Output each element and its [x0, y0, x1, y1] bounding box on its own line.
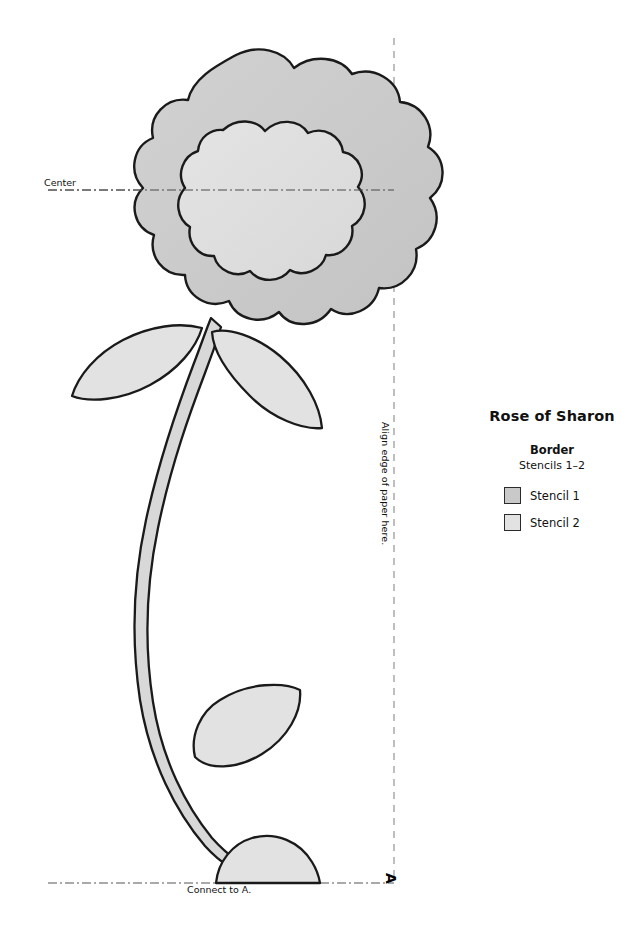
center-guide-label: Center	[44, 178, 76, 188]
leaf-upper-right	[212, 331, 322, 429]
legend-item-stencil-1: Stencil 1	[504, 487, 580, 504]
bud-bottom	[216, 836, 320, 883]
connect-to-a-label: Connect to A.	[187, 885, 251, 895]
corner-marker-a: A	[384, 873, 398, 884]
legend-item-label: Stencil 2	[530, 516, 580, 530]
legend-item-label: Stencil 1	[530, 489, 580, 503]
legend-item-list: Stencil 1 Stencil 2	[472, 487, 632, 531]
legend-stencil-range: Stencils 1–2	[472, 459, 632, 472]
leaf-upper-left	[72, 325, 202, 399]
stencil-2-color-swatch	[504, 514, 521, 531]
legend-subtitle: Border	[472, 443, 632, 457]
stencil-1-color-swatch	[504, 487, 521, 504]
stencil-page: Center Connect to A. Align edge of paper…	[0, 0, 638, 942]
leaf-lower	[194, 685, 300, 767]
legend-item-stencil-2: Stencil 2	[504, 514, 580, 531]
legend-title: Rose of Sharon	[472, 408, 632, 424]
stem-shape	[134, 318, 238, 868]
legend-panel: Rose of Sharon Border Stencils 1–2 Stenc…	[472, 408, 632, 531]
align-edge-of-paper-label: Align edge of paper here.	[380, 422, 390, 545]
